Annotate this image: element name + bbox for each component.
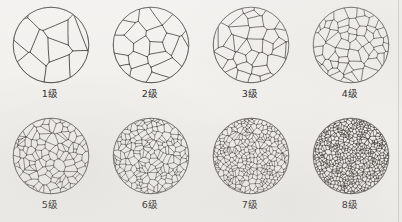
grain-panel-2: 2级 bbox=[100, 0, 200, 111]
grain-panel-3: 3级 bbox=[200, 0, 300, 111]
field-circle-outline bbox=[13, 118, 89, 194]
grain-field-6 bbox=[112, 117, 190, 195]
grain-boundaries bbox=[313, 7, 389, 83]
micrograph-disc-7 bbox=[212, 117, 290, 195]
grain-boundaries bbox=[213, 118, 289, 194]
field-circle-outline bbox=[213, 7, 289, 83]
grade-label-5: 5级 bbox=[0, 199, 100, 210]
micrograph-disc-6 bbox=[112, 117, 190, 195]
grain-field-2 bbox=[112, 6, 190, 84]
grain-panel-6: 6级 bbox=[100, 111, 200, 222]
grain-panel-1: 1级 bbox=[0, 0, 100, 111]
grain-field-3 bbox=[212, 6, 290, 84]
grain-boundaries bbox=[113, 118, 189, 194]
grain-field-1 bbox=[12, 6, 90, 84]
micrograph-disc-5 bbox=[12, 117, 90, 195]
grain-boundaries bbox=[14, 7, 89, 83]
grade-label-3: 3级 bbox=[200, 88, 300, 99]
grade-label-4: 4级 bbox=[300, 88, 400, 99]
grain-field-8 bbox=[312, 117, 390, 195]
micrograph-disc-8 bbox=[312, 117, 390, 195]
grain-size-chart: 1级 2级 3级 4级 bbox=[0, 0, 402, 222]
field-circle-outline bbox=[113, 7, 189, 83]
micrograph-disc-3 bbox=[212, 6, 290, 84]
grain-boundaries bbox=[13, 118, 89, 194]
grade-label-1: 1级 bbox=[0, 88, 100, 99]
grain-panel-8: 8级 bbox=[300, 111, 400, 222]
grade-label-7: 7级 bbox=[200, 199, 300, 210]
grain-panel-5: 5级 bbox=[0, 111, 100, 222]
grain-boundaries bbox=[313, 118, 389, 194]
grain-field-7 bbox=[212, 117, 290, 195]
grain-panel-4: 4级 bbox=[300, 0, 400, 111]
micrograph-disc-4 bbox=[312, 6, 390, 84]
micrograph-disc-1 bbox=[12, 6, 90, 84]
grade-label-8: 8级 bbox=[300, 199, 400, 210]
grade-label-6: 6级 bbox=[100, 199, 200, 210]
micrograph-disc-2 bbox=[112, 6, 190, 84]
grain-field-5 bbox=[12, 117, 90, 195]
grain-field-4 bbox=[312, 6, 390, 84]
page-edge-rule bbox=[398, 0, 399, 222]
grade-label-2: 2级 bbox=[100, 88, 200, 99]
grain-panel-7: 7级 bbox=[200, 111, 300, 222]
field-circle-outline bbox=[13, 7, 89, 83]
